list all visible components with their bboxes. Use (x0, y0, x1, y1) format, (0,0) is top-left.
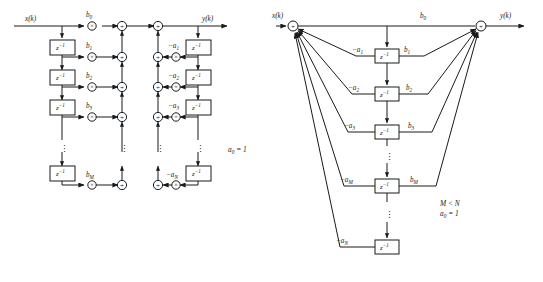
label-b1: b1 (86, 42, 93, 51)
delay-block-right-2: z−1 (186, 70, 211, 85)
label-b1-right: b1 (404, 46, 411, 55)
delay-block-left-M: z−1 (50, 166, 75, 181)
feedforward-b3 (399, 32, 477, 132)
label-a1-right: −a1 (352, 46, 363, 55)
ellipsis-chain-1: ⋮ (385, 152, 394, 162)
plus-glyph: + (156, 54, 160, 62)
ellipsis-chain-2: ⋮ (385, 210, 394, 220)
plus-glyph: + (479, 23, 483, 31)
multiply-glyph: × (174, 53, 178, 61)
label-aN-right: −aN (336, 237, 348, 246)
direct-form-1-diagram: x(k) y(k) × b0 + + + + + + + + + + (14, 11, 247, 190)
label-b0: b0 (86, 11, 93, 20)
delay-block-right-N: z−1 (186, 166, 211, 181)
feedback-aN (295, 33, 375, 247)
label-a3: −a3 (168, 102, 179, 111)
ellipsis-fb-adders: ⋮ (156, 144, 165, 154)
multiply-glyph: × (174, 113, 178, 121)
plus-glyph: + (120, 114, 124, 122)
delay-block-c2: z−1 (375, 87, 399, 101)
branch-bM (62, 181, 84, 185)
plus-glyph: + (120, 182, 124, 190)
label-a2: −a2 (168, 72, 179, 81)
ellipsis-right-delay: ⋮ (196, 144, 205, 154)
plus-glyph: + (120, 54, 124, 62)
delay-block-left-2: z−1 (50, 70, 75, 85)
annotation-m-lt-n: M < N (439, 199, 461, 208)
label-bM-right: bM (410, 176, 419, 185)
delay-block-c1: z−1 (375, 49, 399, 63)
label-b2: b2 (86, 72, 93, 81)
plus-glyph: + (156, 23, 160, 31)
label-b2-right: b2 (406, 84, 413, 93)
plus-glyph: + (120, 23, 124, 31)
label-a3-right: −a3 (344, 122, 355, 131)
annotation-a0-left: a0 = 1 (228, 145, 247, 155)
plus-glyph: + (156, 182, 160, 190)
label-a2-right: −a2 (348, 84, 359, 93)
delay-block-cN: z−1 (375, 240, 399, 254)
feedforward-b2 (399, 31, 476, 95)
multiply-glyph: × (90, 83, 94, 91)
right-output-label: y(k) (499, 12, 512, 20)
label-b3-right: b3 (408, 122, 415, 131)
fb-branch-aN (180, 181, 198, 185)
plus-glyph: + (156, 114, 160, 122)
label-aN: −aN (166, 171, 178, 180)
label-aM-right: −aM (340, 176, 353, 185)
label-b3: b3 (86, 102, 93, 111)
right-input-label: x(k) (271, 12, 284, 20)
delay-block-right-3: z−1 (186, 100, 211, 115)
delay-block-left-1: z−1 (50, 40, 75, 55)
plus-glyph: + (120, 84, 124, 92)
plus-glyph: + (156, 84, 160, 92)
ellipsis-ff-adders: ⋮ (120, 144, 129, 154)
left-output-label: y(k) (201, 15, 214, 23)
direct-form-2-diagram: x(k) + b0 + y(k) z−1 z−1 (271, 12, 524, 254)
multiply-glyph: × (90, 113, 94, 121)
left-input-label: x(k) (24, 15, 37, 23)
label-b0-right: b0 (420, 12, 427, 21)
multiply-glyph: × (174, 181, 178, 189)
feedback-a2 (298, 31, 375, 95)
multiply-glyph: × (174, 83, 178, 91)
delay-block-cM: z−1 (375, 179, 399, 193)
label-bM: bM (86, 171, 95, 180)
ellipsis-left-delay: ⋮ (60, 144, 69, 154)
annotation-a0-right: a0 = 1 (440, 209, 459, 219)
delay-block-right-1: z−1 (186, 40, 211, 55)
delay-block-c3: z−1 (375, 125, 399, 139)
multiply-glyph: × (90, 22, 94, 30)
multiply-glyph: × (90, 53, 94, 61)
plus-glyph: + (291, 23, 295, 31)
multiply-glyph: × (90, 181, 94, 189)
filter-structures-figure: x(k) y(k) × b0 + + + + + + + + + + (0, 0, 543, 282)
feedback-a1 (298, 29, 375, 56)
label-a1: −a1 (168, 42, 179, 51)
feedforward-b1 (399, 29, 476, 56)
delay-block-left-3: z−1 (50, 100, 75, 115)
